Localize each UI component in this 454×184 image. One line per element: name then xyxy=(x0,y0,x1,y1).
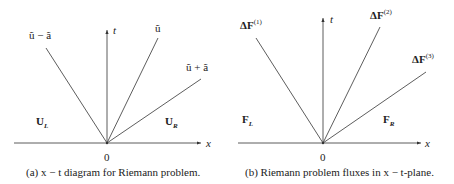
flux-label-2: ΔF(2) xyxy=(370,9,392,21)
x-axis-label: x xyxy=(206,138,211,149)
region-right-label: UR xyxy=(165,116,178,130)
region-left-label: FL xyxy=(242,114,253,128)
wave-left xyxy=(46,48,107,143)
figure-b-diagram xyxy=(238,18,426,144)
caption-a: (a) x − t diagram for Riemann problem. xyxy=(26,166,200,178)
wave-label-right: ũ + ã xyxy=(186,62,208,73)
t-axis-label: t xyxy=(330,14,333,25)
wave-label-middle: ũ xyxy=(155,23,161,34)
x-axis-label: x xyxy=(425,138,430,149)
wave-1 xyxy=(256,38,323,143)
t-axis-label: t xyxy=(113,25,116,36)
wave-3 xyxy=(323,72,426,143)
origin-label: 0 xyxy=(104,152,110,163)
origin-label: 0 xyxy=(320,152,326,163)
caption-b: (b) Riemann problem fluxes in x − t-plan… xyxy=(245,166,434,178)
wave-middle xyxy=(107,38,158,143)
flux-label-3: ΔF(3) xyxy=(412,53,434,65)
wave-right xyxy=(107,79,201,143)
wave-2 xyxy=(323,27,380,143)
region-left-label: UL xyxy=(36,116,48,130)
diagrams-canvas xyxy=(0,0,454,184)
flux-label-1: ΔF(1) xyxy=(240,19,262,31)
wave-label-left: ũ − ã xyxy=(29,30,51,41)
region-right-label: FR xyxy=(383,114,394,128)
